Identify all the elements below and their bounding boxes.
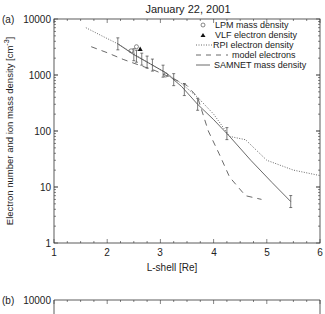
chart-title: January 22, 2001 [145, 3, 230, 15]
panel-b-y-tick-10000: 10000 [23, 295, 51, 306]
legend: LPM mass density VLF electron density RP… [196, 20, 307, 70]
legend-lpm-marker-icon [201, 23, 205, 27]
x-tick-4: 4 [211, 247, 217, 258]
lpm-marker-icon [134, 45, 138, 49]
x-tick-3: 3 [157, 247, 163, 258]
x-tick-6: 6 [317, 247, 323, 258]
x-axis-label: L-shell [Re] [147, 262, 198, 273]
legend-vlf-label: VLF electron density [215, 30, 298, 40]
y-tick-1000: 1000 [29, 70, 52, 81]
legend-rpi-label: RPI electron density [213, 40, 294, 50]
lpm-marker-icon [129, 49, 133, 53]
x-tick-2: 2 [104, 247, 110, 258]
plot-frame-b [54, 300, 320, 314]
x-tick-1: 1 [51, 247, 57, 258]
chart-figure: January 22, 2001 (a) 10000 1000 100 10 1… [0, 0, 325, 314]
y-axis-label: Electron number and ion mass density [cm… [3, 37, 15, 225]
legend-model-label: model electrons [232, 50, 296, 60]
y-tick-100: 100 [34, 126, 51, 137]
y-tick-labels: 10000 1000 100 10 1 [23, 14, 51, 249]
x-tick-labels: 1 2 3 4 5 6 [51, 247, 323, 258]
panel-a-label: (a) [2, 14, 14, 25]
y-tick-10000: 10000 [23, 14, 51, 25]
legend-samnet-label: SAMNET mass density [214, 60, 307, 70]
panel-b-label: (b) [2, 295, 14, 306]
legend-vlf-marker-icon [201, 33, 206, 37]
axis-ticks-b [54, 300, 320, 304]
legend-lpm-label: LPM mass density [215, 20, 289, 30]
y-tick-10: 10 [40, 182, 52, 193]
x-tick-5: 5 [264, 247, 270, 258]
